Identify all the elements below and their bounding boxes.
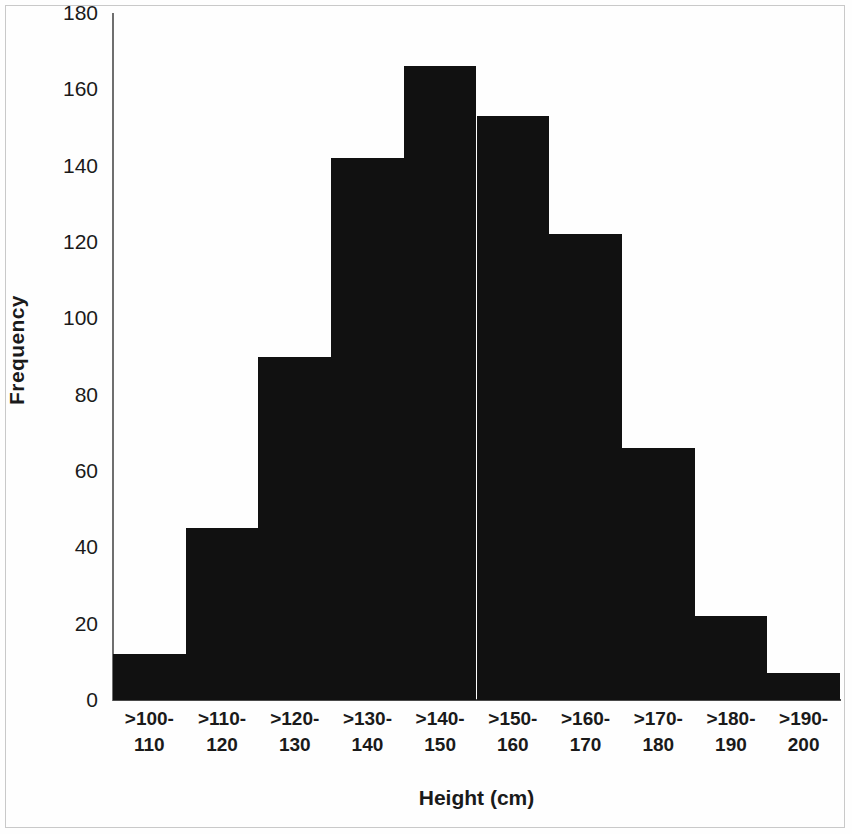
histogram-bar [477,116,550,700]
x-axis-tick-label-line1: >130- [331,706,404,732]
x-axis-tick-label-line2: 110 [113,732,186,758]
x-axis-tick-label-line1: >120- [258,706,331,732]
y-axis-tick-label: 100 [34,306,98,330]
y-axis-tick-label: 60 [34,459,98,483]
x-axis-tick-label-line1: >190- [767,706,840,732]
x-axis-title-label: Height (cm) [419,786,535,809]
histogram-bar [331,158,404,700]
bar-series [113,13,840,700]
x-axis-tick-label-line1: >140- [404,706,477,732]
x-axis-tick-label-line1: >110- [186,706,259,732]
histogram-bar [258,357,331,701]
x-axis-tick-label-line2: 170 [549,732,622,758]
plot-area [113,13,840,700]
x-axis-tick-label-line1: >160- [549,706,622,732]
y-axis-tick-label: 120 [34,230,98,254]
y-axis-title-label: Frequency [5,295,29,405]
histogram-bar [186,528,259,700]
x-axis-title: Height (cm) [113,786,840,810]
x-axis-tick-label-line2: 200 [767,732,840,758]
x-axis-tick-label-line1: >170- [622,706,695,732]
x-axis-tick-label: >100-110 [113,706,186,758]
y-axis-tick-label: 20 [34,612,98,636]
x-axis-tick-label: >160-170 [549,706,622,758]
x-axis-tick-label-line2: 140 [331,732,404,758]
x-axis-tick-label-line2: 180 [622,732,695,758]
y-axis-tick-label: 160 [34,77,98,101]
histogram-bar [767,673,840,700]
x-axis-tick-labels: >100-110>110-120>120-130>130-140>140-150… [113,706,840,770]
histogram-figure: Frequency 020406080100120140160180 >100-… [0,0,852,834]
x-axis-tick-label: >170-180 [622,706,695,758]
x-axis-tick-label: >120-130 [258,706,331,758]
x-axis-tick-label: >130-140 [331,706,404,758]
x-axis-tick-label: >110-120 [186,706,259,758]
histogram-bar [404,66,477,700]
histogram-bar [695,616,768,700]
histogram-bar [622,448,695,700]
x-axis-tick-label-line2: 120 [186,732,259,758]
y-axis-tick-labels: 020406080100120140160180 [34,0,106,714]
x-axis-tick-label-line2: 150 [404,732,477,758]
y-axis-tick-label: 180 [34,1,98,25]
y-axis-title: Frequency [0,0,34,700]
y-axis-tick-label: 80 [34,383,98,407]
x-axis-tick-label-line1: >150- [477,706,550,732]
x-axis-tick-label-line1: >180- [695,706,768,732]
x-axis-tick-label-line2: 190 [695,732,768,758]
x-axis-tick-label-line2: 130 [258,732,331,758]
y-axis-tick-label: 40 [34,535,98,559]
y-axis-tick-label: 0 [34,688,98,712]
x-axis-tick-label: >150-160 [477,706,550,758]
histogram-bar [113,654,186,700]
x-axis-tick-label: >140-150 [404,706,477,758]
histogram-bar [549,234,622,700]
y-axis-tick-label: 140 [34,154,98,178]
x-axis-tick-label-line2: 160 [477,732,550,758]
x-axis-tick-label: >180-190 [695,706,768,758]
x-axis-tick-label-line1: >100- [113,706,186,732]
x-axis-tick-label: >190-200 [767,706,840,758]
